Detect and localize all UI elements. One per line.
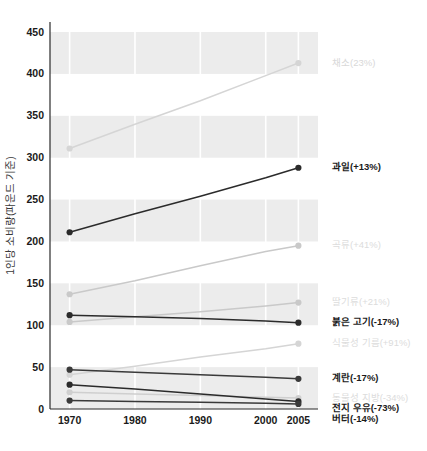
series-point: [295, 243, 301, 249]
y-tick-label: 0: [38, 403, 44, 415]
series-label: 버터(-14%): [332, 413, 379, 424]
y-tick-label: 450: [26, 26, 44, 38]
series-label: 채소(23%): [332, 57, 375, 68]
series-label: 과일(+13%): [332, 161, 381, 172]
series-point: [295, 60, 301, 66]
x-tick-label: 1990: [189, 414, 213, 426]
line-chart-canvas: 050100150200250300350400450 197019801990…: [0, 0, 427, 451]
series-point: [67, 145, 73, 151]
series-point: [295, 165, 301, 171]
y-tick-label: 200: [26, 235, 44, 247]
series-point: [295, 401, 301, 407]
chart-figure: 050100150200250300350400450 197019801990…: [0, 0, 427, 451]
series-point: [295, 300, 301, 306]
series-point: [295, 376, 301, 382]
series-label: 전지 우유(-73%): [332, 402, 399, 413]
grid-bands: [50, 32, 318, 409]
x-tick-label: 2000: [254, 414, 278, 426]
series-label: 식물성 기름(+91%): [332, 337, 411, 348]
y-tick-label: 350: [26, 109, 44, 121]
x-axis-ticks: 19701980199020002005: [58, 414, 310, 426]
series-point: [295, 341, 301, 347]
y-axis-label: 1인당 소비량(파운드 기준): [4, 156, 16, 275]
y-tick-label: 400: [26, 67, 44, 79]
series-label: 계란(-17%): [332, 372, 379, 383]
y-tick-label: 150: [26, 277, 44, 289]
y-tick-label: 100: [26, 319, 44, 331]
grid-band: [50, 200, 318, 242]
series-point: [67, 319, 73, 325]
y-tick-label: 300: [26, 151, 44, 163]
series-point: [67, 291, 73, 297]
series-label: 곡류(+41%): [332, 239, 381, 250]
series-point: [67, 389, 73, 395]
series-point: [67, 367, 73, 373]
x-tick-label: 2005: [287, 414, 311, 426]
series-label: 딸기류(+21%): [332, 296, 390, 307]
x-tick-label: 1980: [123, 414, 147, 426]
grid-band: [50, 116, 318, 158]
series-point: [67, 312, 73, 318]
series-labels-group: 채소(23%)과일(+13%)곡류(+41%)딸기류(+21%)붉은 고기(-1…: [332, 57, 411, 424]
series-label: 붉은 고기(-17%): [332, 316, 399, 327]
y-axis-ticks: 050100150200250300350400450: [26, 26, 44, 415]
series-point: [67, 398, 73, 404]
series-point: [295, 320, 301, 326]
series-label: 동물성 지방(-34%): [332, 392, 408, 403]
series-point: [67, 382, 73, 388]
y-tick-label: 250: [26, 193, 44, 205]
x-tick-label: 1970: [58, 414, 82, 426]
grid-band: [50, 32, 318, 74]
series-point: [67, 229, 73, 235]
y-tick-label: 50: [32, 361, 44, 373]
